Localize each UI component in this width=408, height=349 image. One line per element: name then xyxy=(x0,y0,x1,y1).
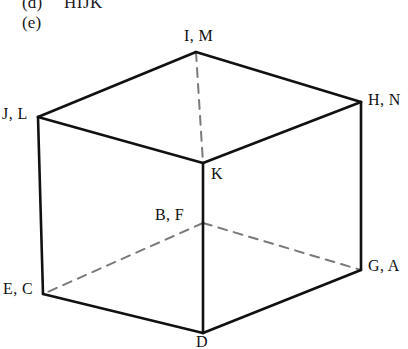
vertex-label-k: K xyxy=(211,166,223,182)
cube-solid-edge xyxy=(203,102,361,163)
cube-solid-edge xyxy=(38,117,203,163)
figure-root: (d)HIJK (e) I, M J, L H, N K B, F E, C G… xyxy=(0,0,408,349)
vertex-label-ec: E, C xyxy=(3,281,33,297)
vertex-label-d: D xyxy=(196,334,208,349)
vertex-label-bf: B, F xyxy=(155,207,184,223)
vertex-label-im: I, M xyxy=(184,28,213,44)
cube-hidden-edge xyxy=(43,223,203,294)
cube-solid-edge xyxy=(38,117,43,294)
vertex-label-hn: H, N xyxy=(368,92,401,108)
cube-hidden-edge xyxy=(203,223,361,270)
solid-edge-group xyxy=(38,52,361,333)
cube-solid-edge xyxy=(196,52,361,102)
cube-diagram xyxy=(0,0,408,349)
vertex-label-ga: G, A xyxy=(368,258,400,274)
cube-solid-edge xyxy=(38,52,196,117)
cube-hidden-edge xyxy=(196,52,203,163)
cube-solid-edge xyxy=(43,294,203,333)
cube-solid-edge xyxy=(203,270,361,333)
vertex-label-jl: J, L xyxy=(2,106,28,122)
